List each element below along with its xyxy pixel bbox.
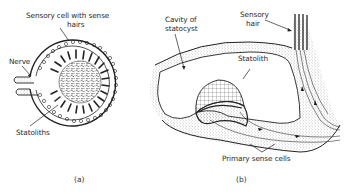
panel-b-statocyst: [150, 14, 340, 152]
label-nerve: Nerve: [9, 58, 30, 66]
panel-a-statocyst: [14, 28, 118, 126]
caption-a: (a): [74, 175, 84, 184]
label-sensory-hair-line2: hair: [246, 20, 260, 28]
label-sensory-cell: Sensory cell with sense: [26, 12, 109, 20]
label-statoliths: Statoliths: [16, 129, 50, 137]
label-primary-sense-cells: Primary sense cells: [222, 155, 291, 163]
label-sensory-hair: Sensory: [240, 11, 269, 19]
label-statolith: Statolith: [238, 55, 268, 63]
label-cavity: Cavity of: [165, 16, 197, 24]
caption-b: (b): [236, 175, 247, 184]
label-cavity-line2: statocyst: [165, 25, 198, 33]
label-sensory-cell-line2: hairs: [67, 21, 84, 29]
